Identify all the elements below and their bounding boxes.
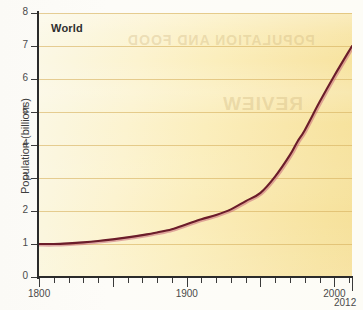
y-axis-title: Population (billions): [19, 61, 31, 231]
y-tick: [31, 145, 37, 146]
y-tick-label: 0: [14, 270, 28, 281]
x-tick-minor: [54, 278, 55, 283]
x-tick-minor: [128, 278, 129, 283]
plot-area: POPULATION AND FOOD REVIEW: [39, 13, 352, 277]
x-axis-end-label: 2012: [334, 297, 356, 308]
x-tick-minor: [201, 278, 202, 283]
x-tick-major: [39, 278, 40, 287]
x-tick-minor: [172, 278, 173, 283]
x-tick-minor: [157, 278, 158, 283]
x-tick-minor: [231, 278, 232, 283]
gridline: [39, 244, 352, 245]
x-tick-major: [334, 278, 335, 287]
gridline: [39, 13, 352, 14]
x-tick-major: [187, 278, 188, 287]
y-tick: [31, 244, 37, 245]
y-tick: [31, 112, 37, 113]
x-tick-major: [113, 278, 114, 287]
x-tick-minor: [320, 278, 321, 283]
x-tick-minor: [216, 278, 217, 283]
y-tick-label: 8: [14, 6, 28, 17]
x-tick-minor: [275, 278, 276, 283]
y-axis-line: [37, 11, 39, 279]
gridline: [39, 211, 352, 212]
y-tick: [31, 79, 37, 80]
y-tick: [31, 178, 37, 179]
gridline: [39, 145, 352, 146]
x-tick-minor: [69, 278, 70, 283]
x-tick-label: 1900: [176, 288, 198, 299]
x-tick-minor: [305, 278, 306, 283]
x-tick-end-2012: [352, 278, 353, 291]
gridline: [39, 46, 352, 47]
gridline: [39, 112, 352, 113]
series-label-world: World: [51, 22, 83, 34]
y-tick: [31, 277, 37, 278]
y-tick-label: 7: [14, 39, 28, 50]
x-tick-label: 1800: [28, 288, 50, 299]
gridline: [39, 79, 352, 80]
y-tick: [31, 211, 37, 212]
gridline: [39, 178, 352, 179]
y-tick: [31, 13, 37, 14]
y-tick: [31, 46, 37, 47]
population-chart-figure: POPULATION AND FOOD REVIEW 012345678 Pop…: [0, 0, 363, 310]
x-tick-minor: [290, 278, 291, 283]
x-tick-minor: [349, 278, 350, 283]
x-tick-minor: [83, 278, 84, 283]
x-tick-major: [260, 278, 261, 287]
x-tick-minor: [246, 278, 247, 283]
x-tick-minor: [98, 278, 99, 283]
y-tick-label: 1: [14, 237, 28, 248]
x-tick-minor: [142, 278, 143, 283]
